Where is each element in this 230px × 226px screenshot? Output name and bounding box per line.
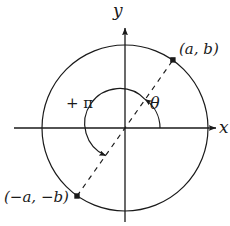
x-axis-label: x (219, 119, 229, 136)
point-label-neg-a-neg-b: (−a, −b) (4, 190, 69, 205)
theta-angle-label: θ (150, 96, 160, 112)
unit-circle-diagram: y x θ + π (a, b) (−a, −b) (0, 0, 230, 226)
y-axis-label: y (113, 2, 123, 19)
plus-pi-label: + π (66, 96, 93, 111)
point-label-ab: (a, b) (179, 42, 219, 57)
pi-arc (85, 88, 145, 155)
point-marker-ab (170, 57, 175, 62)
point-marker-neg-a-neg-b (74, 193, 79, 198)
